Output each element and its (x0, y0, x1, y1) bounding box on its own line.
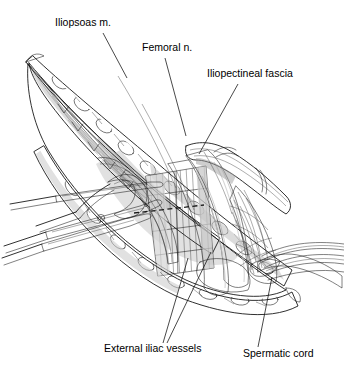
label-femoral-nerve: Femoral n. (142, 41, 192, 53)
label-iliopectineal-fascia: Iliopectineal fascia (207, 67, 293, 79)
label-spermatic-cord: Spermatic cord (243, 347, 314, 359)
illustration-canvas: Iliopsoas m. Femoral n. Iliopectineal fa… (0, 0, 344, 382)
label-external-iliac-vessels: External iliac vessels (104, 342, 201, 354)
label-iliopsoas: Iliopsoas m. (55, 16, 111, 28)
surgical-illustration-figure: Iliopsoas m. Femoral n. Iliopectineal fa… (0, 0, 344, 382)
